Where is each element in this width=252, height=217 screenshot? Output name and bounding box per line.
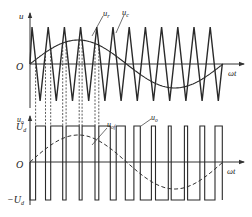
top-x-label: ωt bbox=[228, 68, 237, 78]
pwm-output-pulses bbox=[30, 126, 222, 200]
bottom-x-label: ωt bbox=[227, 166, 236, 176]
top-plot: u O ωt ur uc bbox=[16, 7, 244, 126]
uof-leader-line bbox=[92, 128, 107, 145]
ud-tick-label: Ud bbox=[16, 121, 27, 133]
neg-ud-tick-label: −Ud bbox=[7, 194, 25, 206]
ur-label: ur bbox=[103, 8, 110, 19]
spwm-waveform-diagram: u O ωt ur uc uo Ud O −Ud ωt uof uo bbox=[0, 0, 252, 217]
top-y-label: u bbox=[19, 11, 24, 21]
uc-leader-line bbox=[116, 15, 124, 33]
top-origin-label: O bbox=[16, 61, 23, 72]
uc-label: uc bbox=[122, 7, 129, 18]
bottom-plot: uo Ud O −Ud ωt uof uo bbox=[7, 113, 244, 206]
bottom-origin-label: O bbox=[16, 159, 23, 170]
uof-label: uof bbox=[107, 120, 117, 130]
uo-leader-line bbox=[141, 119, 151, 126]
uo-label: uo bbox=[151, 113, 158, 123]
